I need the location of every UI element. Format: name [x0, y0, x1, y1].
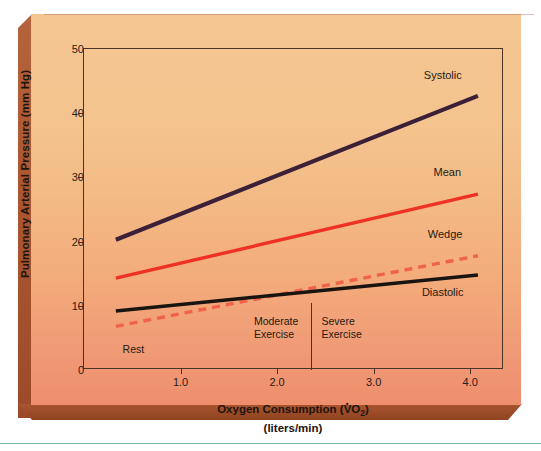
y-tick-label: 0 [78, 364, 84, 376]
zone-label-line: Exercise [322, 328, 362, 341]
series-label-systolic: Systolic [424, 69, 462, 81]
x-tick-label: 4.0 [463, 376, 478, 388]
x-axis-title: Oxygen Consumption (VO2) (liters/min) [83, 402, 503, 436]
x-tick-mark [277, 368, 278, 374]
y-tick-label: 30 [72, 171, 84, 183]
zone-label-line: Exercise [254, 328, 298, 341]
zone-label-line: Moderate [254, 315, 298, 328]
x-tick-mark [470, 368, 471, 374]
x-tick-label: 3.0 [366, 376, 381, 388]
x-tick-label: 1.0 [173, 376, 188, 388]
figure-page: Pulmonary Arterial Pressure (mm Hg) Oxyg… [0, 0, 541, 451]
series-label-diastolic: Diastolic [422, 286, 464, 298]
x-tick-label: 2.0 [269, 376, 284, 388]
chart-face: Pulmonary Arterial Pressure (mm Hg) Oxyg… [31, 14, 521, 405]
y-tick-label: 10 [72, 300, 84, 312]
y-tick-label: 40 [72, 107, 84, 119]
moderate-severe-divider [311, 303, 312, 370]
x-tick-mark [374, 368, 375, 374]
plot-area: 010203040501.02.03.04.0SystolicMeanWedge… [83, 48, 503, 369]
plate-edge-highlight [44, 14, 534, 15]
series-label-mean: Mean [434, 166, 462, 178]
x-tick-mark [181, 368, 182, 374]
x-axis-title-sub: (liters/min) [83, 421, 503, 436]
zone-label-moderate-exercise: ModerateExercise [254, 315, 298, 341]
chart-plate: Pulmonary Arterial Pressure (mm Hg) Oxyg… [18, 14, 522, 432]
series-line-systolic [116, 96, 478, 240]
zone-label-severe-exercise: SevereExercise [322, 315, 362, 341]
y-tick-label: 20 [72, 236, 84, 248]
footer-rule [0, 443, 541, 444]
zone-label-rest: Rest [123, 343, 145, 356]
series-label-wedge: Wedge [428, 228, 463, 240]
zone-label-line: Rest [123, 343, 145, 356]
y-tick-label: 50 [72, 43, 84, 55]
x-axis-title-main: Oxygen Consumption (VO2) [83, 402, 503, 421]
v-dot-overline: V [344, 403, 352, 415]
zone-label-line: Severe [322, 315, 362, 328]
y-axis-title: Pulmonary Arterial Pressure (mm Hg) [19, 70, 31, 278]
